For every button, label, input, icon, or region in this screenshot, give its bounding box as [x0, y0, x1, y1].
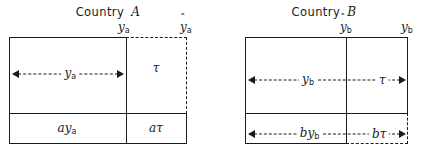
dim-btau-label: bτ — [369, 128, 389, 140]
panel-a-tau-right-dashed — [186, 37, 187, 114]
panel-a-tau-top-dashed — [126, 37, 187, 38]
dim-by-b-sub: b — [314, 132, 319, 141]
label-y-b-top: yb — [401, 20, 413, 35]
arrowhead-right-icon — [399, 130, 406, 138]
dim-y-b-and-tau: yb τ — [248, 74, 406, 85]
dim-by-b-label: byb — [297, 127, 323, 141]
label-y-b-sub: b — [408, 26, 413, 35]
dim-y-b-label: yb — [299, 73, 317, 87]
panel-a-center-divider — [126, 37, 127, 144]
hat-accent-icon: ˆ — [340, 13, 346, 24]
dim-by-b-and-btau: byb bτ — [248, 128, 406, 139]
dim-y-a-base: y — [64, 66, 71, 80]
panel-a-bottom-edge — [9, 143, 187, 144]
panel-a-left-edge — [9, 37, 10, 144]
label-y-a-base: y — [118, 20, 125, 34]
label-yhat-b-sub: b — [347, 26, 352, 35]
label-yhat-b-top: ˆ y b — [340, 20, 352, 35]
dim-y-b-sub: b — [309, 78, 314, 87]
dim-tau-b-label: τ — [376, 74, 389, 86]
yhat-b-hatwrap: ˆ y — [340, 20, 347, 34]
cell-ay-a: aya — [58, 121, 77, 136]
arrowhead-right-icon — [117, 70, 124, 78]
dim-btau-coef: b — [372, 127, 380, 141]
cell-tau-a: τ — [153, 61, 160, 75]
cell-atau-a-symbol: τ — [156, 121, 163, 135]
panel-b-title: Country B — [216, 5, 432, 19]
panel-b-title-prefix: Country — [292, 5, 341, 19]
label-yhat-a-sub: a — [187, 26, 192, 35]
panel-b-middle-divider — [245, 113, 408, 114]
dim-tau-b-symbol: τ — [379, 73, 386, 87]
figure-root: Country A ya ˆ y a — [0, 0, 432, 154]
hat-accent-icon: ˆ — [180, 13, 186, 24]
dim-btau-symbol: τ — [380, 127, 387, 141]
cell-ay-a-base: y — [65, 121, 72, 135]
label-y-b-base: y — [401, 20, 408, 34]
panel-b-btau-right-dashed — [407, 113, 408, 144]
panel-a-title-letter: A — [128, 5, 140, 19]
dim-y-a-sub: a — [71, 72, 76, 81]
panel-a-middle-divider — [9, 113, 187, 114]
panel-b-right-edge — [407, 37, 408, 114]
yhat-a-hatwrap: ˆ y — [180, 20, 187, 34]
arrowhead-right-icon — [399, 76, 406, 84]
dim-y-a-label: ya — [61, 67, 79, 81]
label-y-a-sub: a — [125, 26, 130, 35]
cell-atau-a: aτ — [149, 121, 163, 135]
panel-b-btau-bottom-dashed — [346, 143, 408, 144]
label-yhat-a-top: ˆ y a — [180, 20, 192, 35]
panel-a-atau-right-edge — [186, 113, 187, 144]
cell-ay-a-sub: a — [72, 127, 77, 136]
dim-by-b-coef: b — [300, 126, 308, 140]
panel-country-b: Country B ˆ y b yb — [216, 0, 432, 154]
dim-y-b-base: y — [302, 72, 309, 86]
label-y-a-top: ya — [118, 20, 130, 35]
panel-b-bottom-edge-left — [245, 143, 346, 144]
panel-b-title-letter: B — [344, 5, 356, 19]
dim-y-a: ya — [12, 68, 124, 79]
panel-b-top-edge — [245, 37, 408, 38]
cell-tau-a-symbol: τ — [153, 61, 160, 75]
panel-a-title-prefix: Country — [76, 5, 125, 19]
panel-b-left-edge — [245, 37, 246, 144]
panel-country-a: Country A ya ˆ y a — [0, 0, 216, 154]
panel-a-top-edge-left — [9, 37, 126, 38]
